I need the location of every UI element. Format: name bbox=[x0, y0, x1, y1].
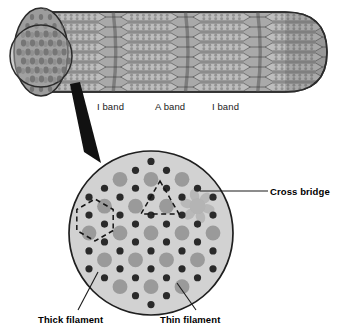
band-label-a: A band bbox=[155, 101, 185, 112]
label-thick-filament: Thick filament bbox=[38, 314, 103, 325]
cross-section-group bbox=[69, 151, 268, 315]
band-label-i-left: I band bbox=[97, 101, 124, 112]
muscle-diagram-svg bbox=[0, 0, 343, 335]
myofibril-group bbox=[10, 5, 333, 96]
label-thin-filament: Thin filament bbox=[160, 314, 220, 325]
figure-canvas: I band A band I band Cross bridge Thick … bbox=[0, 0, 343, 335]
magnification-arrow bbox=[70, 82, 101, 163]
band-label-i-right: I band bbox=[212, 101, 239, 112]
label-cross-bridge: Cross bridge bbox=[270, 186, 330, 197]
